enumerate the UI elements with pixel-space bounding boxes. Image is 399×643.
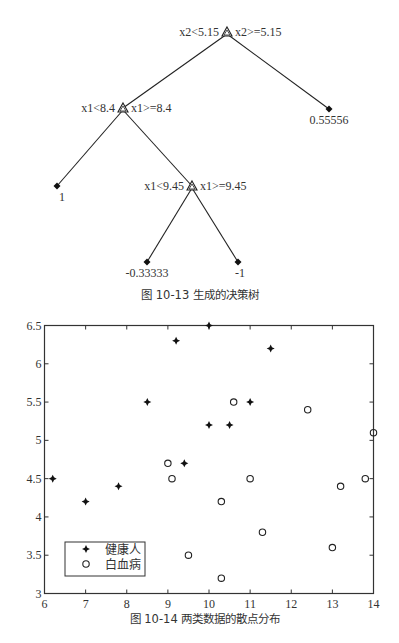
x-tick-label: 14 [368, 597, 380, 611]
leukemia-point-circle-icon [169, 475, 175, 481]
split-right-label: x1>=8.4 [131, 101, 172, 115]
leukemia-point-circle-icon [230, 399, 236, 405]
tree-edge [57, 110, 123, 186]
tree-caption: 图 10-13 生成的决策树 [141, 288, 260, 302]
legend-label-healthy: 健康人 [105, 542, 141, 557]
leaf-value-label: -0.33333 [126, 266, 169, 280]
tree-edge [123, 34, 227, 108]
y-tick-label: 6 [36, 357, 42, 371]
x-tick-label: 6 [42, 597, 48, 611]
leaf-node-diamond-icon [144, 259, 151, 266]
healthy-point-star-icon [115, 482, 123, 490]
healthy-point-star-icon [49, 475, 57, 483]
scatter-caption: 图 10-14 两类数据的散点分布 [130, 612, 281, 626]
healthy-point-star-icon [172, 337, 180, 345]
healthy-point-star-icon [226, 421, 234, 429]
tree-edge [227, 34, 329, 109]
healthy-point-star-icon [267, 344, 275, 352]
y-tick-label: 3 [36, 587, 42, 601]
healthy-point-star-icon [246, 398, 254, 406]
x-tick-label: 13 [326, 597, 338, 611]
x-tick-label: 9 [165, 597, 171, 611]
leukemia-point-circle-icon [218, 575, 224, 581]
healthy-point-star-icon [143, 398, 151, 406]
leukemia-point-circle-icon [362, 475, 368, 481]
leukemia-point-circle-icon [247, 475, 253, 481]
split-right-label: x2>=5.15 [235, 25, 282, 39]
y-tick-label: 4 [36, 510, 42, 524]
y-tick-label: 3.5 [27, 548, 42, 562]
x-tick-label: 12 [285, 597, 297, 611]
tree-edge [147, 188, 192, 262]
x-tick-label: 7 [83, 597, 89, 611]
split-left-label: x2<5.15 [179, 25, 219, 39]
leaf-value-label: 0.55556 [310, 113, 349, 127]
split-right-label: x1>=9.45 [200, 179, 247, 193]
y-tick-label: 6.5 [27, 319, 42, 333]
leukemia-point-circle-icon [329, 544, 335, 550]
legend-label-leukemia: 白血病 [105, 557, 141, 572]
leukemia-point-circle-icon [185, 552, 191, 558]
leukemia-point-circle-icon [218, 498, 224, 504]
scatter-plot: 6789101112131433.544.555.566.5 健康人 白血病 [27, 319, 380, 611]
leukemia-point-circle-icon [305, 407, 311, 413]
tree-edge [192, 188, 238, 262]
x-tick-label: 10 [203, 597, 215, 611]
leukemia-point-circle-icon [165, 460, 171, 466]
healthy-point-star-icon [180, 459, 188, 467]
healthy-point-star-icon [82, 498, 90, 506]
leaf-value-label: 1 [59, 190, 65, 204]
leukemia-point-circle-icon [337, 483, 343, 489]
leaf-value-label: -1 [235, 266, 245, 280]
figure-canvas: x2<5.15x2>=5.15x1<8.4x1>=8.40.555561x1<9… [0, 0, 399, 643]
healthy-point-star-icon [205, 322, 213, 330]
y-tick-label: 5 [36, 433, 42, 447]
x-tick-label: 8 [124, 597, 130, 611]
legend: 健康人 白血病 [65, 542, 145, 577]
tree-edge [123, 110, 192, 186]
healthy-point-star-icon [205, 421, 213, 429]
x-tick-label: 11 [244, 597, 256, 611]
leukemia-point-circle-icon [259, 529, 265, 535]
split-left-label: x1<8.4 [81, 101, 115, 115]
decision-tree: x2<5.15x2>=5.15x1<8.4x1>=8.40.555561x1<9… [54, 25, 349, 280]
split-left-label: x1<9.45 [144, 179, 184, 193]
y-tick-label: 5.5 [27, 395, 42, 409]
y-tick-label: 4.5 [27, 472, 42, 486]
leaf-node-diamond-icon [235, 259, 242, 266]
